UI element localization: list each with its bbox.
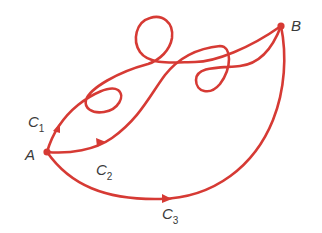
curve-c2 (47, 26, 281, 152)
path-diagram: A B C1 C2 C3 (0, 0, 322, 233)
curve-c3-label: C3 (162, 205, 179, 226)
point-a-label: A (24, 146, 35, 163)
point-b-label: B (291, 17, 301, 34)
curve-c1 (47, 17, 281, 152)
curve-c2-label: C2 (96, 161, 113, 182)
point-b-dot (277, 22, 284, 29)
curve-c1-label: C1 (28, 113, 45, 134)
c3-arrow-icon (162, 194, 172, 203)
point-a-dot (43, 148, 50, 155)
c1-arrow-icon (53, 123, 60, 133)
